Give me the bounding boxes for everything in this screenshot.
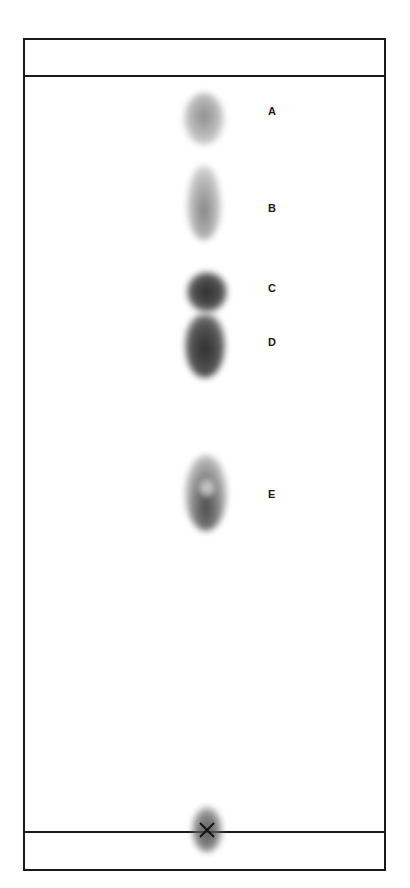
spot-d bbox=[185, 314, 225, 378]
spot-a bbox=[184, 93, 224, 145]
spot-label-d: D bbox=[268, 336, 276, 348]
spot-label-c: C bbox=[268, 282, 276, 294]
spot-c bbox=[187, 272, 227, 312]
spot-b bbox=[187, 166, 221, 240]
spot-e-light-center bbox=[198, 478, 216, 498]
spot-label-e: E bbox=[268, 488, 275, 500]
origin-cross-icon bbox=[198, 821, 216, 839]
spot-label-b: B bbox=[268, 202, 276, 214]
solvent-front-line bbox=[23, 75, 386, 77]
spot-label-a: A bbox=[268, 105, 276, 117]
